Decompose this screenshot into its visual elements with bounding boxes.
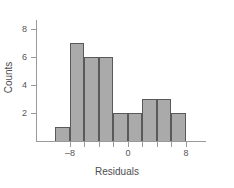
x-tick-4	[157, 142, 158, 147]
y-tick-6	[31, 57, 37, 58]
histogram-bar	[113, 113, 128, 142]
y-tick-label: 2	[5, 109, 27, 118]
x-tick-minus4	[99, 142, 100, 147]
x-tick-minus8	[70, 142, 71, 147]
x-tick-label: 0	[113, 148, 143, 158]
histogram-bar	[142, 99, 157, 142]
y-tick-label: 8	[5, 25, 27, 34]
x-tick-minus6	[84, 142, 85, 147]
y-tick-2	[31, 113, 37, 114]
histogram-bar	[128, 113, 142, 142]
histogram-bar	[70, 43, 84, 142]
x-tick-0	[128, 142, 129, 147]
histogram-bar	[55, 127, 70, 142]
x-axis-line	[36, 141, 206, 142]
x-tick-minus2	[113, 142, 114, 147]
x-tick-6	[171, 142, 172, 147]
y-axis-title: Counts	[3, 48, 14, 108]
x-tick-label: 8	[171, 148, 201, 158]
plot-area: 2 4 6 8 –8 0 8	[0, 0, 234, 188]
histogram-bar	[84, 57, 99, 142]
x-tick-8	[186, 142, 187, 147]
y-tick-4	[31, 85, 37, 86]
histogram-bar	[157, 99, 171, 142]
histogram-figure: 2 4 6 8 –8 0 8 Residuals Counts	[0, 0, 234, 188]
y-axis-line	[36, 20, 37, 142]
x-axis-title: Residuals	[0, 166, 234, 177]
x-tick-label: –8	[55, 148, 85, 158]
histogram-bar	[171, 113, 186, 142]
x-tick-2	[142, 142, 143, 147]
y-tick-8	[31, 29, 37, 30]
histogram-bar	[99, 57, 113, 142]
